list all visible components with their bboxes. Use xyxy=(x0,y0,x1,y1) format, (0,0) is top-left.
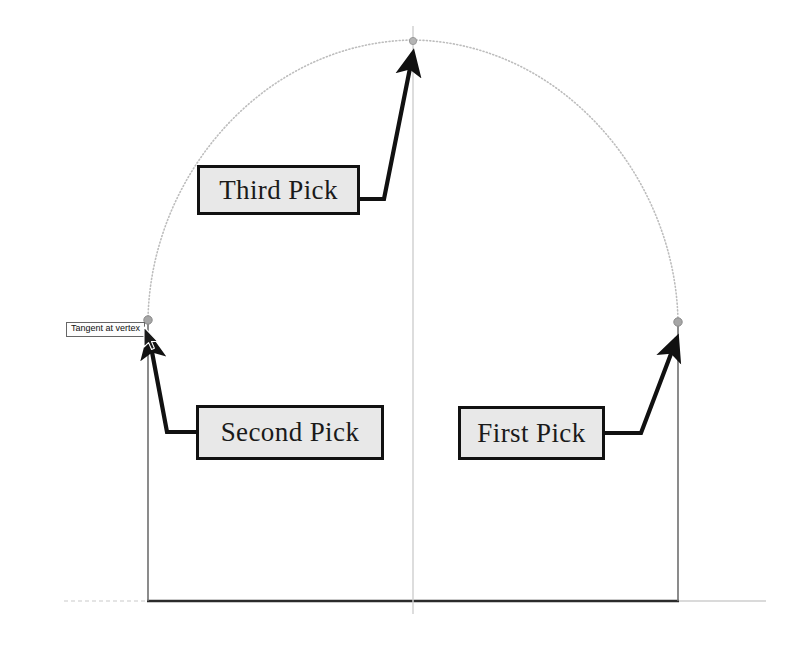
drawing-canvas: Tangent at vertex Third Pick Second Pick… xyxy=(0,0,804,646)
first-pick-leader-line xyxy=(605,338,677,433)
callout-label-second-pick: Second Pick xyxy=(221,419,360,446)
callout-box-first-pick[interactable]: First Pick xyxy=(458,406,605,460)
mouse-cursor-icon xyxy=(142,326,160,352)
callout-label-first-pick: First Pick xyxy=(477,420,585,447)
third-pick-leader-line xyxy=(360,53,413,199)
tangent-at-vertex-tooltip: Tangent at vertex xyxy=(66,322,145,337)
grip-node-icon[interactable] xyxy=(674,318,682,326)
grip-node-icon[interactable] xyxy=(144,316,152,324)
grip-node-icon[interactable] xyxy=(409,37,416,44)
callout-box-second-pick[interactable]: Second Pick xyxy=(196,405,384,460)
callout-label-third-pick: Third Pick xyxy=(219,177,338,204)
callout-box-third-pick[interactable]: Third Pick xyxy=(197,165,360,215)
